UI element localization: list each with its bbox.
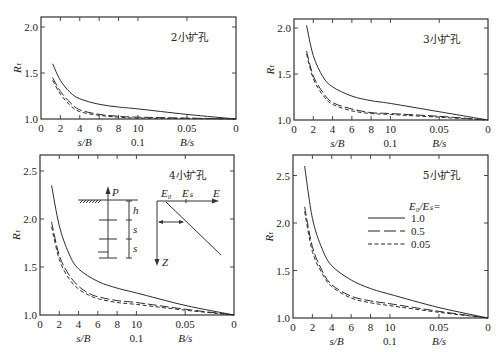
series-line-0.5 — [305, 207, 488, 318]
x-tick-label: 6 — [349, 123, 355, 135]
panel-title: 2小扩孔 — [171, 31, 209, 43]
x-axis-label-sb: s/B — [330, 335, 344, 347]
y-tick-label: 1.0 — [23, 309, 37, 321]
x-tick-label: 0 — [38, 122, 44, 134]
es-label: Eₛ — [181, 187, 194, 199]
x-axis-label-sb: s/B — [78, 136, 92, 148]
x-axis-label-bs: B/s — [432, 137, 446, 149]
x-tick-label: 0.05 — [177, 122, 197, 134]
x-tick-label: 8 — [368, 321, 374, 333]
x-tick-label: 0.05 — [176, 318, 196, 330]
x-tick-label: 8 — [368, 123, 374, 135]
x-tick-label: 0.05 — [429, 321, 449, 333]
x-tick-label: 4 — [77, 122, 83, 134]
load-label: P — [111, 186, 119, 198]
y-axis-label: Rₜ — [10, 229, 22, 241]
y-tick-label: 1.5 — [276, 265, 290, 277]
x-tick-label: 2 — [310, 321, 316, 333]
x-tick-label: 2 — [58, 122, 64, 134]
y-tick-label: 2.5 — [23, 165, 37, 177]
dimension-line — [126, 201, 132, 258]
x-axis-label-mid: 0.1 — [131, 136, 145, 148]
chart-panel-4: 02468100.0501.01.52.02.5Rₜs/B0.1B/s5小扩孔 — [263, 155, 491, 347]
x-tick-label: 8 — [116, 122, 122, 134]
y-tick-label: 1.0 — [24, 113, 38, 125]
x-tick-label: 6 — [95, 318, 101, 330]
panel-title: 4小扩孔 — [169, 169, 207, 181]
z-axis-arrow-icon — [155, 259, 160, 266]
x-tick-label: 10 — [131, 318, 143, 330]
e-axis-arrow-icon — [212, 199, 219, 204]
x-tick-label: 0 — [233, 122, 239, 134]
h-label: h — [133, 204, 139, 216]
x-axis-label-mid: 0.1 — [130, 332, 144, 344]
series-line-0.5 — [307, 51, 488, 120]
series-line-1.0 — [305, 166, 488, 318]
x-tick-label: 0 — [485, 321, 491, 333]
e0-label: E₀ — [160, 187, 172, 199]
y-axis-label: Rₜ — [264, 64, 276, 76]
series-line-0.5 — [53, 78, 236, 119]
x-tick-label: 0.05 — [430, 123, 450, 135]
x-tick-label: 4 — [329, 321, 335, 333]
series-line-0.5 — [52, 222, 234, 315]
legend-label-3: 0.05 — [411, 238, 431, 250]
x-tick-label: 10 — [385, 123, 397, 135]
y-tick-label: 1.0 — [276, 312, 290, 324]
series-line-0.05 — [305, 212, 488, 318]
x-tick-label: 0 — [231, 318, 237, 330]
y-tick-label: 1.0 — [277, 114, 291, 126]
x-tick-label: 8 — [114, 318, 120, 330]
x-tick-label: 0 — [291, 123, 297, 135]
x-axis-label-mid: 0.1 — [383, 335, 397, 347]
legend: E₀/Eₛ= 1.0 0.5 0.05 — [368, 200, 441, 250]
series-line-1.0 — [307, 25, 488, 120]
chart-panel-3: 02468100.0501.01.52.02.5Rₜs/B0.1B/s4小扩孔 — [10, 155, 237, 344]
y-axis-label: Rₜ — [263, 231, 275, 243]
series-line-1.0 — [52, 185, 234, 315]
y-tick-label: 2.0 — [24, 21, 38, 33]
x-axis-label-sb: s/B — [330, 137, 344, 149]
x-tick-label: 2 — [57, 318, 63, 330]
x-tick-label: 0 — [290, 321, 296, 333]
y-tick-label: 2.5 — [276, 170, 290, 182]
x-tick-label: 0 — [37, 318, 43, 330]
panels: 02468100.0501.01.52.0Rₜs/B0.1B/s2小扩孔0246… — [10, 17, 491, 347]
series-line-1.0 — [53, 64, 236, 119]
y-axis-label: Rₜ — [11, 62, 23, 74]
series-line-0.05 — [53, 80, 236, 119]
pile-diagram: P h s s — [78, 186, 139, 258]
chart-panel-2: 02468100.0501.01.52.0Rₜs/B0.1B/s3小扩孔 — [264, 19, 491, 149]
e-label: E — [212, 187, 220, 199]
y-tick-label: 2.0 — [277, 22, 291, 34]
panel-title: 5小扩孔 — [423, 169, 461, 181]
x-tick-label: 0 — [485, 123, 491, 135]
s-label-1: s — [133, 223, 137, 235]
x-tick-label: 10 — [384, 321, 396, 333]
x-axis-label-bs: B/s — [432, 335, 446, 347]
z-label: Z — [162, 256, 169, 268]
x-axis-label-mid: 0.1 — [384, 137, 398, 149]
x-tick-label: 6 — [348, 321, 354, 333]
modulus-diagram: E₀ Eₛ E Z — [155, 187, 222, 268]
y-tick-label: 1.5 — [24, 67, 38, 79]
legend-title: E₀/Eₛ= — [408, 200, 441, 212]
x-tick-label: 2 — [311, 123, 317, 135]
x-tick-label: 4 — [76, 318, 82, 330]
chart-panel-1: 02468100.0501.01.52.0Rₜs/B0.1B/s2小扩孔 — [11, 17, 239, 148]
y-tick-label: 2.0 — [276, 217, 290, 229]
y-tick-label: 2.0 — [23, 213, 37, 225]
x-axis-label-bs: B/s — [180, 136, 194, 148]
y-tick-label: 1.5 — [277, 68, 291, 80]
x-axis-label-bs: B/s — [178, 332, 192, 344]
x-axis-label-sb: s/B — [76, 332, 90, 344]
panel-title: 3小扩孔 — [423, 33, 461, 45]
load-arrow-icon — [106, 186, 111, 194]
figure: 02468100.0501.01.52.0Rₜs/B0.1B/s2小扩孔0246… — [0, 0, 503, 352]
legend-label-2: 0.5 — [411, 225, 425, 237]
modulus-line — [166, 202, 221, 255]
y-tick-label: 1.5 — [23, 261, 37, 273]
series-line-0.05 — [52, 227, 234, 315]
legend-label-1: 1.0 — [411, 212, 425, 224]
x-tick-label: 4 — [330, 123, 336, 135]
